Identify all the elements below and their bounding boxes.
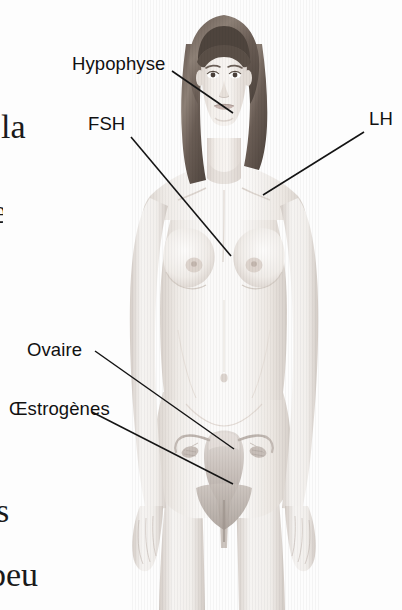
label-hypophyse: Hypophyse [72, 53, 165, 75]
leader-line-group [0, 0, 402, 610]
label-oestrogenes: Œstrogènes [9, 398, 110, 420]
figure-page: Hypophyse FSH LH Ovaire Œstrogènes la e … [0, 0, 402, 610]
ovaire-leader [95, 351, 234, 449]
hypophyse-leader [172, 71, 233, 113]
body-text-fragment-s: s [0, 492, 12, 530]
body-text-fragment-peu: peu [0, 556, 38, 594]
label-ovaire: Ovaire [27, 339, 82, 361]
label-fsh: FSH [88, 113, 125, 135]
label-lh: LH [369, 108, 393, 130]
oestrogenes-leader [92, 412, 233, 484]
body-text-fragment-la: la [1, 108, 26, 146]
fsh-leader [131, 137, 231, 256]
body-text-fragment-e: e [0, 193, 3, 231]
lh-leader [263, 132, 364, 195]
